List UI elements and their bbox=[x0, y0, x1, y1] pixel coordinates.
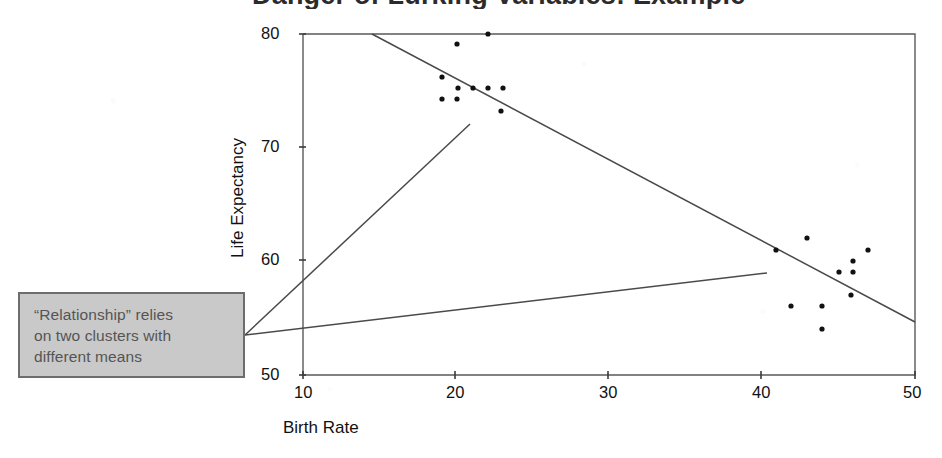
scatter-plot: 80 70 60 50 10 20 30 40 50 Birth Rate Li… bbox=[0, 0, 942, 458]
data-point bbox=[485, 31, 490, 36]
data-point bbox=[470, 85, 475, 90]
y-axis-label: Life Expectancy bbox=[228, 138, 248, 258]
data-points-cluster-b bbox=[773, 235, 870, 331]
y-tick-label: 80 bbox=[261, 24, 279, 43]
x-tick-label: 30 bbox=[599, 383, 617, 402]
trend-line bbox=[372, 34, 915, 322]
y-tick-label: 50 bbox=[261, 365, 279, 384]
data-point bbox=[836, 269, 841, 274]
data-point bbox=[439, 96, 444, 101]
annotation-leader-lines bbox=[245, 124, 767, 335]
data-point bbox=[439, 74, 444, 79]
data-point bbox=[498, 108, 503, 113]
annotation-line: “Relationship” relies bbox=[34, 304, 173, 325]
x-axis-label: Birth Rate bbox=[283, 418, 359, 438]
data-point bbox=[455, 85, 460, 90]
data-points-cluster-a bbox=[439, 31, 505, 113]
annotation-callout-text: “Relationship” relies on two clusters wi… bbox=[34, 304, 173, 367]
data-point bbox=[485, 85, 490, 90]
data-point bbox=[819, 303, 824, 308]
annotation-line: on two clusters with bbox=[34, 325, 173, 346]
data-point bbox=[819, 326, 824, 331]
x-tick-label: 40 bbox=[752, 383, 770, 402]
data-point bbox=[848, 292, 853, 297]
x-tick-label: 10 bbox=[294, 383, 312, 402]
data-point bbox=[850, 269, 855, 274]
plot-frame bbox=[303, 34, 915, 375]
figure-root: Danger of Lurking Variables: Example bbox=[0, 0, 942, 458]
data-point bbox=[865, 247, 870, 252]
data-point bbox=[788, 303, 793, 308]
annotation-callout: “Relationship” relies on two clusters wi… bbox=[18, 292, 245, 378]
data-point bbox=[500, 85, 505, 90]
x-tick-label: 50 bbox=[903, 383, 921, 402]
y-tick-label: 70 bbox=[261, 137, 279, 156]
data-point bbox=[773, 247, 778, 252]
data-point bbox=[804, 235, 809, 240]
data-point bbox=[850, 258, 855, 263]
data-point bbox=[454, 96, 459, 101]
plot-svg bbox=[0, 0, 942, 458]
y-axis-label-holder: Life Expectancy bbox=[228, 258, 229, 259]
data-point bbox=[454, 41, 459, 46]
x-tick-label: 20 bbox=[446, 383, 464, 402]
annotation-line: different means bbox=[34, 346, 173, 367]
y-tick-label: 60 bbox=[261, 250, 279, 269]
